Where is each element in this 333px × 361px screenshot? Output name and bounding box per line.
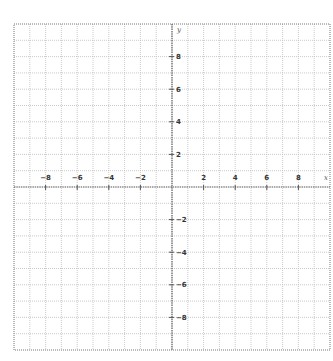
coordinate-plane: −8−6−4−224688642−2−4−6−8 x y: [0, 0, 333, 361]
y-axis-label: y: [176, 26, 182, 34]
x-tick-label: 2: [201, 174, 206, 182]
x-axis-label: x: [324, 174, 328, 182]
y-tick-label: −2: [176, 216, 187, 224]
y-tick-label: −6: [176, 281, 187, 289]
x-tick-label: 4: [233, 174, 238, 182]
y-tick-label: −8: [176, 314, 187, 322]
x-tick-label: 8: [296, 174, 301, 182]
y-tick-label: 8: [176, 53, 181, 61]
y-tick-label: 2: [176, 151, 181, 159]
x-tick-label: −6: [72, 174, 83, 182]
x-tick-label: −8: [40, 174, 51, 182]
y-tick-label: 4: [176, 118, 181, 126]
x-tick-label: −4: [103, 174, 114, 182]
y-tick-label: −4: [176, 249, 187, 257]
x-tick-label: 6: [264, 174, 269, 182]
x-tick-label: −2: [135, 174, 146, 182]
y-tick-label: 6: [176, 86, 181, 94]
